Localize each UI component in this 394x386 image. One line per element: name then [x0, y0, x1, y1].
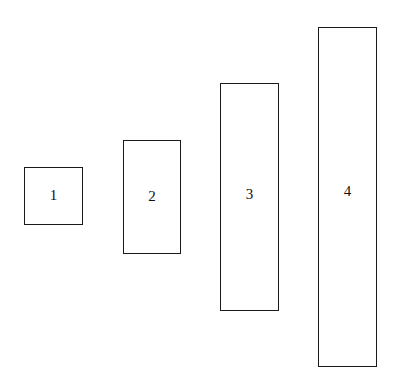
rectangle-1-label: 1 [25, 188, 82, 203]
rectangle-4-label: 4 [319, 184, 376, 199]
rectangle-3-label: 3 [221, 187, 278, 202]
rectangle-2: 2 [123, 140, 181, 254]
rectangle-4: 4 [318, 27, 377, 367]
rectangle-1: 1 [24, 167, 83, 225]
rectangle-3: 3 [220, 83, 279, 311]
rectangle-2-label: 2 [124, 189, 180, 204]
